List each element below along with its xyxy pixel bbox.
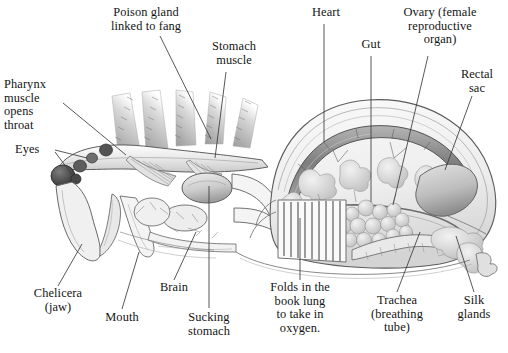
label-gut: Gut	[355, 38, 387, 52]
label-brain: Brain	[152, 281, 196, 295]
label-stomach-muscle: Stomach muscle	[198, 40, 270, 67]
label-sucking-stomach: Sucking stomach	[178, 311, 240, 338]
label-silk-glands: Silk glands	[449, 294, 499, 321]
label-mouth: Mouth	[98, 311, 146, 325]
spinnerets	[476, 253, 497, 277]
leg-setae-group	[112, 90, 258, 152]
label-book-lung: Folds in the book lung to take in oxygen…	[259, 281, 341, 335]
label-rectal-sac: Rectal sac	[452, 68, 502, 95]
label-trachea: Trachea (breathing tube)	[360, 294, 434, 335]
sucking-stomach	[182, 173, 232, 203]
label-ovary: Ovary (female reproductive organ)	[392, 6, 488, 47]
label-chelicera: Chelicera (jaw)	[20, 287, 96, 314]
book-lung	[250, 200, 346, 262]
pedicel	[232, 174, 276, 232]
label-heart: Heart	[303, 6, 349, 20]
label-poison-gland: Poison gland linked to fang	[94, 6, 198, 33]
spider-anatomy-figure: Pharynx muscle opens throat Eyes Poison …	[0, 0, 508, 353]
label-pharynx-muscle: Pharynx muscle opens throat	[4, 78, 70, 132]
leg-coxa-group	[148, 230, 236, 252]
label-eyes: Eyes	[15, 143, 57, 157]
